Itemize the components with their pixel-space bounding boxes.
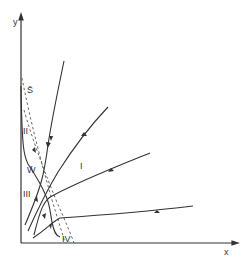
- isoclines: [22, 78, 74, 243]
- phase-portrait-diagram: [0, 0, 252, 263]
- region-label-ii: II: [23, 127, 28, 136]
- region-label-iv: IV: [62, 235, 71, 244]
- trajectories: [21, 61, 193, 238]
- y-axis-label: y: [13, 18, 18, 27]
- arrow-icon: [42, 213, 46, 219]
- trajectory-3: [34, 153, 150, 235]
- arrow-icon: [32, 147, 36, 153]
- arrow-icon: [49, 136, 53, 141]
- trajectory-4: [33, 206, 193, 238]
- x-axis-arrow-icon: [232, 241, 238, 245]
- y-axis-arrow-icon: [19, 14, 23, 20]
- w-bar-label: W̄: [27, 166, 36, 175]
- region-label-i: I: [80, 162, 83, 171]
- s-bar-label: S̄: [27, 86, 33, 95]
- x-axis-label: x: [224, 248, 229, 257]
- region-label-iii: III: [23, 190, 31, 199]
- axes: [19, 14, 238, 245]
